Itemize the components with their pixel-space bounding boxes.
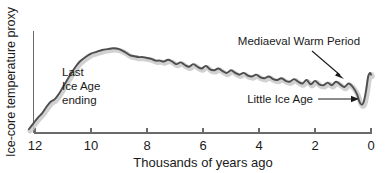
x-tick-label-2: 2	[311, 138, 318, 153]
annotation-label-mediaeval-warm-period: Mediaeval Warm Period	[238, 35, 360, 47]
y-axis-title: Ice-core temperature proxy	[4, 6, 18, 157]
x-tick-label-10: 10	[84, 138, 98, 153]
ice-core-temperature-chart: 12 10 8 6 4 2 0 Thousands of years ago I…	[0, 0, 391, 173]
annotation-little-ice-age: Little Ice Age	[247, 93, 359, 105]
annotation-label-little-ice-age: Little Ice Age	[247, 93, 313, 105]
annotation-line-last: Last	[62, 66, 85, 78]
annotation-arrow-head-mediaeval	[335, 73, 344, 80]
annotation-last-ice-age-ending: Last Ice Age ending	[62, 66, 100, 106]
annotation-line-ending: ending	[62, 94, 97, 106]
x-tick-label-12: 12	[28, 138, 42, 153]
x-tick-label-6: 6	[199, 138, 206, 153]
annotation-line-ice-age: Ice Age	[62, 80, 100, 92]
x-axis-title: Thousands of years ago	[133, 155, 272, 170]
x-tick-label-8: 8	[143, 138, 150, 153]
chart-plot-area: 12 10 8 6 4 2 0 Thousands of years ago I…	[0, 0, 391, 173]
x-axis-ticks	[35, 128, 371, 133]
annotation-arrow-line-mediaeval	[312, 51, 340, 75]
annotation-mediaeval-warm-period: Mediaeval Warm Period	[238, 35, 360, 79]
x-tick-label-4: 4	[255, 138, 262, 153]
x-tick-label-0: 0	[367, 138, 374, 153]
